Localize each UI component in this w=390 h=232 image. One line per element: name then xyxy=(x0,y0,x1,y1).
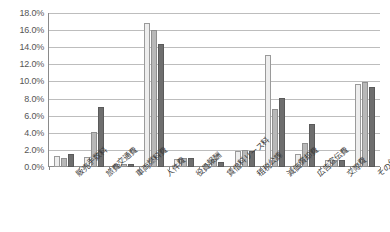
x-tick-label: 減価償却費 xyxy=(284,170,291,178)
bar[interactable] xyxy=(369,87,375,167)
x-tick-label: 租税公課 xyxy=(254,170,261,178)
bar-group[interactable] xyxy=(139,13,169,167)
bar-group[interactable] xyxy=(350,13,380,167)
bar[interactable] xyxy=(218,162,224,167)
y-tick-label: 8.0% xyxy=(24,94,44,104)
x-tick xyxy=(109,167,110,170)
x-tick xyxy=(260,167,261,170)
bar-group[interactable] xyxy=(320,13,350,167)
x-tick xyxy=(199,167,200,170)
y-tick-label: 10.0% xyxy=(19,76,44,86)
bar[interactable] xyxy=(151,30,157,167)
bar-group[interactable] xyxy=(49,13,79,167)
bar[interactable] xyxy=(188,158,194,167)
x-tick-label: 広告宣伝費 xyxy=(314,170,321,178)
bar-group[interactable] xyxy=(290,13,320,167)
y-tick-label: 16.0% xyxy=(19,25,44,35)
x-tick-label: 交際費 xyxy=(344,170,351,178)
x-tick xyxy=(169,167,170,170)
y-tick-label: 14.0% xyxy=(19,42,44,52)
x-axis-labels: 販売手数料旅費交通費車両燃料費人件費役員報酬賃借料リース料租税公課減価償却費広告… xyxy=(0,168,390,232)
x-tick xyxy=(230,167,231,170)
x-tick xyxy=(49,167,50,170)
x-tick-label: 人件費 xyxy=(163,170,170,178)
x-tick-label: 旅費交通費 xyxy=(103,170,110,178)
x-tick-label: 役員報酬 xyxy=(193,170,200,178)
bar[interactable] xyxy=(265,55,271,167)
y-axis: 0.0%2.0%4.0%6.0%8.0%10.0%12.0%14.0%16.0%… xyxy=(0,13,44,167)
y-tick-label: 6.0% xyxy=(24,111,44,121)
bars-layer xyxy=(49,13,380,167)
x-tick-label: 車両燃料費 xyxy=(133,170,140,178)
x-tick-label: 賃借料リース料 xyxy=(224,170,231,178)
x-tick xyxy=(139,167,140,170)
bar[interactable] xyxy=(68,154,74,167)
y-tick-label: 18.0% xyxy=(19,8,44,18)
bar-group[interactable] xyxy=(169,13,199,167)
x-tick xyxy=(79,167,80,170)
x-tick xyxy=(320,167,321,170)
bar[interactable] xyxy=(355,84,361,167)
bar[interactable] xyxy=(144,23,150,167)
bar[interactable] xyxy=(362,82,368,167)
x-tick-label: 販売手数料 xyxy=(73,170,80,178)
x-tick xyxy=(350,167,351,170)
x-tick-label: その他 xyxy=(374,170,381,178)
bar-chart: 0.0%2.0%4.0%6.0%8.0%10.0%12.0%14.0%16.0%… xyxy=(0,0,390,232)
bar[interactable] xyxy=(61,158,67,167)
y-tick-label: 12.0% xyxy=(19,59,44,69)
bar-group[interactable] xyxy=(199,13,229,167)
y-tick-label: 4.0% xyxy=(24,128,44,138)
bar-group[interactable] xyxy=(109,13,139,167)
y-tick-label: 2.0% xyxy=(24,145,44,155)
bar[interactable] xyxy=(128,164,134,167)
bar-group[interactable] xyxy=(79,13,109,167)
x-tick xyxy=(380,167,381,170)
x-tick xyxy=(290,167,291,170)
bar[interactable] xyxy=(54,156,60,167)
